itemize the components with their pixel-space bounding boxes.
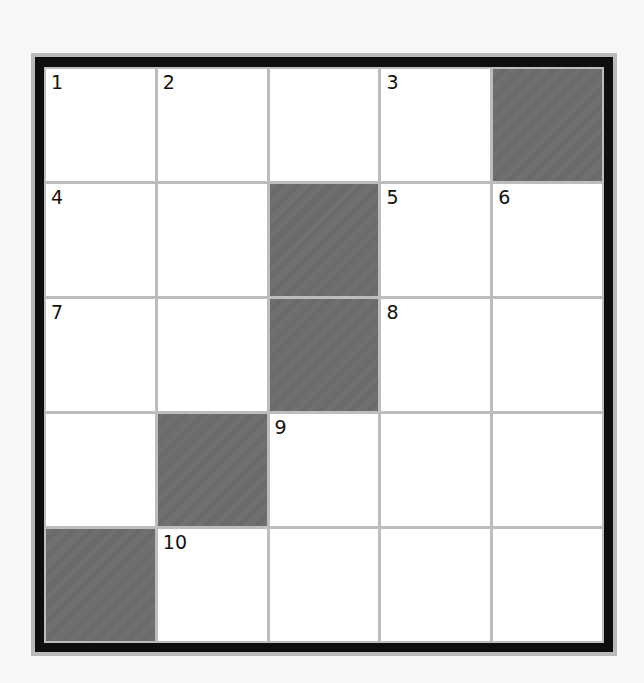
cell-letter: [46, 184, 155, 296]
cell-letter: [381, 184, 490, 296]
crossword-cell[interactable]: 2: [158, 69, 267, 181]
crossword-cell[interactable]: [381, 414, 490, 526]
block-cell: [493, 69, 602, 181]
cell-letter: [270, 414, 379, 526]
cell-letter: [381, 299, 490, 411]
cell-letter: [158, 184, 267, 296]
cell-letter: [493, 529, 602, 641]
cell-letter: [493, 299, 602, 411]
cell-letter: [381, 69, 490, 181]
block-cell: [46, 529, 155, 641]
cell-letter: [158, 299, 267, 411]
crossword-cell[interactable]: 5: [381, 184, 490, 296]
crossword-grid: 12345678910: [44, 67, 604, 643]
block-cell: [270, 184, 379, 296]
crossword-cell[interactable]: [493, 414, 602, 526]
crossword-cell[interactable]: 3: [381, 69, 490, 181]
crossword-cell[interactable]: [158, 184, 267, 296]
crossword-cell[interactable]: 6: [493, 184, 602, 296]
crossword-cell[interactable]: 10: [158, 529, 267, 641]
crossword-cell[interactable]: 1: [46, 69, 155, 181]
crossword-cell[interactable]: [270, 69, 379, 181]
crossword-cell[interactable]: 7: [46, 299, 155, 411]
cell-letter: [381, 529, 490, 641]
crossword-cell[interactable]: 8: [381, 299, 490, 411]
crossword-cell[interactable]: [46, 414, 155, 526]
crossword-cell[interactable]: [158, 299, 267, 411]
crossword-cell[interactable]: 4: [46, 184, 155, 296]
cell-letter: [493, 184, 602, 296]
cell-letter: [493, 414, 602, 526]
crossword-cell[interactable]: [270, 529, 379, 641]
crossword-cell[interactable]: [493, 529, 602, 641]
crossword-cell[interactable]: [493, 299, 602, 411]
block-cell: [270, 299, 379, 411]
block-cell: [158, 414, 267, 526]
cell-letter: [270, 69, 379, 181]
cell-letter: [158, 529, 267, 641]
cell-letter: [46, 414, 155, 526]
crossword-cell[interactable]: [381, 529, 490, 641]
cell-letter: [46, 299, 155, 411]
cell-letter: [270, 529, 379, 641]
cell-letter: [158, 69, 267, 181]
cell-letter: [46, 69, 155, 181]
crossword-cell[interactable]: 9: [270, 414, 379, 526]
cell-letter: [381, 414, 490, 526]
